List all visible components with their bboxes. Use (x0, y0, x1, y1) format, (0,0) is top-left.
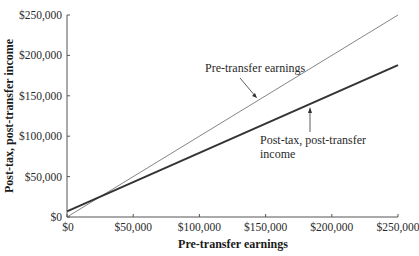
y-axis-title: Post-tax, post-transfer income (2, 38, 16, 193)
annotation-post-tax-line2: income (260, 147, 295, 161)
annotations: Pre-transfer earningsPost-tax, post-tran… (205, 61, 366, 161)
x-tick-label: $200,000 (310, 221, 353, 234)
x-axis-title: Pre-transfer earnings (178, 237, 288, 251)
plot-area (67, 15, 398, 217)
y-axis: $0$50,000$100,000$150,000$200,000$250,00… (19, 9, 70, 223)
y-tick-label: $50,000 (25, 171, 63, 184)
annotation-post-tax-line1: Post-tax, post-transfer (260, 133, 366, 147)
y-tick-label: $100,000 (19, 130, 62, 143)
x-tick-label: $100,000 (178, 221, 221, 234)
pre-transfer-earnings-line (67, 15, 398, 217)
y-tick-label: $150,000 (19, 90, 62, 103)
y-tick-label: $200,000 (19, 49, 62, 62)
x-tick-label: $0 (62, 221, 74, 233)
y-tick-label: $250,000 (19, 9, 62, 22)
x-axis: $0$50,000$100,000$150,000$200,000$250,00… (62, 214, 419, 234)
chart: $0$50,000$100,000$150,000$200,000$250,00… (0, 0, 419, 256)
y-tick-label: $0 (51, 211, 63, 223)
x-tick-label: $250,000 (376, 221, 419, 234)
annotation-pre-transfer: Pre-transfer earnings (205, 61, 306, 75)
x-tick-label: $50,000 (115, 221, 153, 234)
annotation-arrow (240, 78, 256, 97)
x-tick-label: $150,000 (244, 221, 287, 234)
arrowhead-icon (308, 107, 312, 113)
